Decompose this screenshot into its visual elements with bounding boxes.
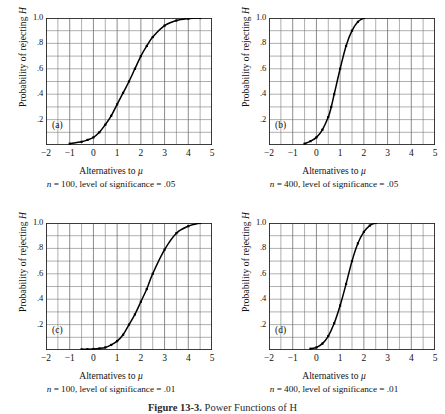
x-tick-label: 1 — [332, 148, 348, 158]
x-tick-label: −1 — [62, 353, 78, 363]
x-tick-label: 1 — [109, 353, 125, 363]
x-tick-label: 3 — [157, 353, 173, 363]
figure-caption-body: Power Functions of H — [205, 402, 297, 413]
x-tick-label: 3 — [157, 148, 173, 158]
panel-tag-b: (b) — [275, 120, 286, 130]
panel-caption-d: n = 400, level of significance = .01 — [223, 384, 445, 394]
x-axis-label-d: Alternatives to μ — [223, 371, 445, 381]
x-tick-label: 3 — [380, 353, 396, 363]
chart-panel-a: Probability of rejecting H (a) Alternati… — [0, 0, 222, 205]
x-tick-label: 5 — [204, 353, 220, 363]
x-axis-label-a: Alternatives to μ — [0, 166, 222, 176]
chart-panel-b: Probability of rejecting H (b) Alternati… — [223, 0, 445, 205]
x-tick-label: −2 — [261, 353, 277, 363]
x-tick-label: 3 — [380, 148, 396, 158]
y-tick-label: .4 — [21, 293, 43, 303]
x-tick-label: 5 — [427, 353, 443, 363]
x-tick-label: −2 — [38, 148, 54, 158]
y-tick-label: .4 — [244, 88, 266, 98]
chart-panel-c: Probability of rejecting H (c) Alternati… — [0, 205, 222, 410]
plot-area-d — [269, 223, 435, 350]
panel-caption-c: n = 100, level of significance = .01 — [0, 384, 222, 394]
panel-tag-c: (c) — [52, 325, 63, 335]
x-tick-label: 2 — [356, 148, 372, 158]
y-tick-label: .2 — [21, 319, 43, 329]
x-axis-label-b: Alternatives to μ — [223, 166, 445, 176]
x-tick-label: 4 — [403, 148, 419, 158]
figure-caption: Figure 13-3. Power Functions of H — [0, 402, 445, 413]
y-tick-label: .6 — [244, 63, 266, 73]
y-tick-label: .8 — [244, 37, 266, 47]
x-tick-label: −1 — [285, 148, 301, 158]
x-tick-label: −1 — [285, 353, 301, 363]
y-tick-label: .6 — [244, 268, 266, 278]
x-tick-label: 0 — [308, 353, 324, 363]
x-tick-label: 4 — [180, 148, 196, 158]
y-tick-label: 1.0 — [244, 12, 266, 22]
y-tick-label: .2 — [244, 114, 266, 124]
x-tick-label: 1 — [109, 148, 125, 158]
y-tick-label: 1.0 — [21, 217, 43, 227]
x-tick-label: −2 — [38, 353, 54, 363]
x-tick-label: 2 — [133, 353, 149, 363]
x-tick-label: 2 — [133, 148, 149, 158]
panel-tag-a: (a) — [52, 120, 63, 130]
y-tick-label: .4 — [244, 293, 266, 303]
y-axis-label-d: Probability of rejecting H — [241, 192, 251, 332]
y-tick-label: .6 — [21, 63, 43, 73]
panel-tag-d: (d) — [275, 325, 286, 335]
y-tick-label: .2 — [244, 319, 266, 329]
x-tick-label: 4 — [180, 353, 196, 363]
x-tick-label: 5 — [427, 148, 443, 158]
x-tick-label: −1 — [62, 148, 78, 158]
x-tick-label: 0 — [85, 353, 101, 363]
plot-svg-a — [46, 18, 212, 145]
panel-caption-b: n = 400, level of significance = .05 — [223, 179, 445, 189]
plot-area-c — [46, 223, 212, 350]
x-tick-label: 1 — [332, 353, 348, 363]
x-tick-label: 4 — [403, 353, 419, 363]
plot-svg-b — [269, 18, 435, 145]
plot-svg-c — [46, 223, 212, 350]
y-axis-label-c: Probability of rejecting H — [18, 192, 28, 332]
x-axis-label-c: Alternatives to μ — [0, 371, 222, 381]
x-tick-label: 0 — [308, 148, 324, 158]
figure-grid: Probability of rejecting H (a) Alternati… — [0, 0, 445, 414]
panel-caption-a: n = 100, level of significance = .05 — [0, 179, 222, 189]
y-tick-label: .4 — [21, 88, 43, 98]
figure-caption-label: Figure 13-3. — [148, 402, 202, 413]
y-tick-label: .6 — [21, 268, 43, 278]
y-tick-label: .8 — [244, 242, 266, 252]
x-tick-label: 2 — [356, 353, 372, 363]
y-tick-label: 1.0 — [244, 217, 266, 227]
y-tick-label: .8 — [21, 242, 43, 252]
y-tick-label: .8 — [21, 37, 43, 47]
plot-area-a — [46, 18, 212, 145]
y-tick-label: 1.0 — [21, 12, 43, 22]
x-tick-label: 5 — [204, 148, 220, 158]
y-tick-label: .2 — [21, 114, 43, 124]
chart-panel-d: Probability of rejecting H (d) Alternati… — [223, 205, 445, 410]
x-tick-label: −2 — [261, 148, 277, 158]
x-tick-label: 0 — [85, 148, 101, 158]
plot-svg-d — [269, 223, 435, 350]
plot-area-b — [269, 18, 435, 145]
